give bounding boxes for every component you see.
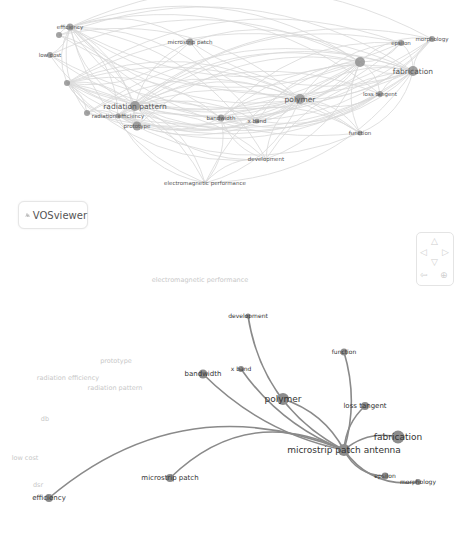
node-label: fabrication [393,67,433,76]
node-microstrip-patch-antenna[interactable]: microstrip patch antenna [287,444,401,456]
node-label: loss tangent [343,402,386,410]
node-unlabeled-3[interactable] [84,110,90,116]
node-function[interactable]: function [349,130,372,136]
pan-up-icon[interactable]: △ [431,237,438,246]
node-circle [355,57,365,67]
node-radiation-efficiency[interactable]: radiation efficiency [92,113,145,120]
node-label: efficiency [57,24,84,31]
vosviewer-logo[interactable]: VOSviewer [18,201,88,229]
node-polymer[interactable]: polymer [285,94,317,104]
node-label: bandwidth [207,115,237,121]
node-label: development [248,156,285,163]
node-morphology[interactable]: morphology [416,36,450,43]
node-label: polymer [264,394,301,404]
node-label: morphology [416,36,450,43]
top-network-canvas[interactable]: efficiencylow costmicrostrip patchradiat… [0,0,471,195]
node-development[interactable]: development [228,312,268,320]
node-microstrip-patch[interactable]: microstrip patch [141,474,198,482]
node-label: low cost [39,52,62,58]
node-unlabeled-2[interactable] [64,80,70,86]
node-efficiency[interactable]: efficiency [57,24,84,31]
node-label: development [228,312,268,320]
faded-label: prototype [100,357,132,365]
vosviewer-logo-text: VOSviewer [33,210,87,221]
node-label: x band [231,365,252,372]
node-fabrication[interactable]: fabrication [374,431,422,444]
bottom-network-canvas[interactable]: electromagnetic performanceprototyperadi… [0,250,471,547]
node-label: epsilon [374,472,396,480]
faded-label: radiation pattern [88,384,143,392]
overall-network-panel[interactable]: efficiencylow costmicrostrip patchradiat… [0,0,471,195]
faded-label: radiation efficiency [37,374,99,382]
bottom-network-nodes: developmentfunctionx bandbandwidthpolyme… [32,312,436,502]
node-loss-tangent[interactable]: loss tangent [363,91,398,98]
node-circle [56,32,62,38]
node-label: fabrication [374,432,422,442]
node-label: microstrip patch antenna [287,445,401,455]
node-label: loss tangent [363,91,398,98]
node-loss-tangent[interactable]: loss tangent [343,402,386,410]
node-circle [64,80,70,86]
network-edge [70,27,401,77]
node-label: morphology [400,478,436,486]
node-x-band[interactable]: x band [248,118,267,124]
node-label: electromagnetic performance [164,180,246,187]
node-x-band[interactable]: x band [231,365,252,372]
faded-label: dsr [33,481,44,489]
node-morphology[interactable]: morphology [400,478,436,486]
node-microstrip-patch[interactable]: microstrip patch [168,39,214,46]
node-epsilon[interactable]: epsilon [374,472,396,480]
node-label: x band [248,118,267,124]
node-label: function [332,348,357,355]
node-label: function [349,130,372,136]
edge-x-band [241,369,344,450]
node-development[interactable]: development [248,156,285,163]
node-efficiency[interactable]: efficiency [32,494,66,502]
node-unlabeled-1[interactable] [56,32,62,38]
node-electromagnetic-performance[interactable]: electromagnetic performance [164,180,246,187]
faded-label: low cost [12,454,39,462]
focus-network-panel[interactable]: electromagnetic performanceprototyperadi… [0,250,471,547]
node-function[interactable]: function [332,348,357,356]
node-label: microstrip patch [141,474,198,482]
node-epsilon[interactable]: epsilon [391,40,411,47]
node-label: efficiency [32,494,66,502]
node-polymer[interactable]: polymer [264,393,301,405]
node-label: bandwidth [185,370,222,378]
node-radiation-pattern[interactable]: radiation pattern [103,101,167,111]
node-bandwidth[interactable]: bandwidth [207,115,237,122]
vosviewer-logo-icon [25,209,30,221]
node-fabrication[interactable]: fabrication [393,66,433,76]
node-label: epsilon [391,40,411,47]
faded-label: db [41,415,49,423]
node-label: polymer [285,95,317,104]
node-label: radiation efficiency [92,113,145,120]
node-circle [84,110,90,116]
node-unlabeled-hub[interactable] [355,57,365,67]
node-bandwidth[interactable]: bandwidth [185,370,222,379]
node-label: prototype [124,123,151,130]
faded-label: electromagnetic performance [152,276,249,284]
node-label: microstrip patch [168,39,214,46]
edge-function [344,352,351,450]
node-low-cost[interactable]: low cost [39,52,62,58]
node-label: radiation pattern [103,102,167,111]
